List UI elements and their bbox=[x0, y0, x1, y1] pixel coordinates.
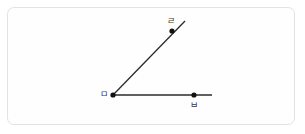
point-label-mieum: ㅁ bbox=[100, 90, 108, 99]
point-label-rieul: ㄹ bbox=[167, 17, 175, 26]
geometry-figure-canvas: ㅁ ㄹ ㅂ bbox=[0, 0, 305, 134]
point-bieup bbox=[191, 92, 196, 97]
point-label-bieup: ㅂ bbox=[190, 101, 198, 110]
angle-diagram-svg bbox=[0, 0, 305, 134]
point-rieul bbox=[169, 28, 174, 33]
point-vertex-mieum bbox=[110, 92, 115, 97]
